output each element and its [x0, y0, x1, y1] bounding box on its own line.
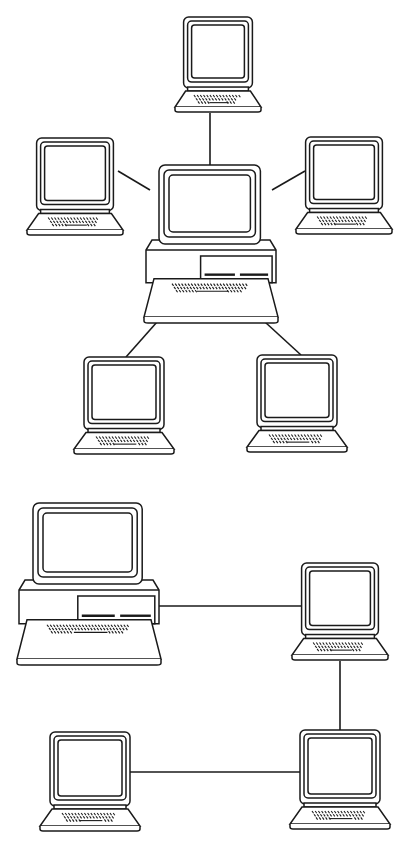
screen [192, 25, 245, 78]
chain-topology-terminal-lower-right [290, 730, 390, 829]
screen [92, 365, 156, 420]
screen [169, 175, 250, 232]
keyboard [292, 639, 388, 660]
screen [308, 738, 372, 794]
keyboard [247, 431, 347, 452]
star-topology-terminal-bottom-left [74, 357, 174, 454]
star-topology-terminal-bottom-right [247, 355, 347, 452]
screen [310, 571, 371, 626]
keyboard [74, 433, 174, 454]
screen [58, 740, 122, 796]
screen [314, 145, 375, 200]
keyboard [27, 214, 123, 235]
keyboard [290, 807, 390, 829]
screen [265, 363, 329, 418]
devices [17, 17, 392, 831]
chain-topology-terminal-lower-left [40, 732, 140, 831]
star-topology-terminal-top [175, 17, 261, 112]
link-hub-to-bottom-right [265, 322, 301, 355]
keyboard [296, 213, 392, 234]
star-topology-terminal-left [27, 138, 123, 235]
star-topology-terminal-right [296, 137, 392, 234]
link-left-to-hub [118, 171, 150, 190]
screen [45, 146, 106, 201]
screen [43, 513, 132, 572]
network-diagram-canvas [0, 0, 418, 841]
keyboard [17, 620, 161, 665]
keyboard [144, 279, 278, 323]
keyboard [175, 91, 261, 112]
star-topology-hub-computer [144, 165, 278, 323]
keyboard [40, 809, 140, 831]
link-right-to-hub [272, 171, 305, 190]
link-hub-to-bottom-left [126, 322, 157, 357]
chain-topology-hub-computer [17, 503, 161, 665]
chain-topology-terminal-upper-right [292, 563, 388, 660]
